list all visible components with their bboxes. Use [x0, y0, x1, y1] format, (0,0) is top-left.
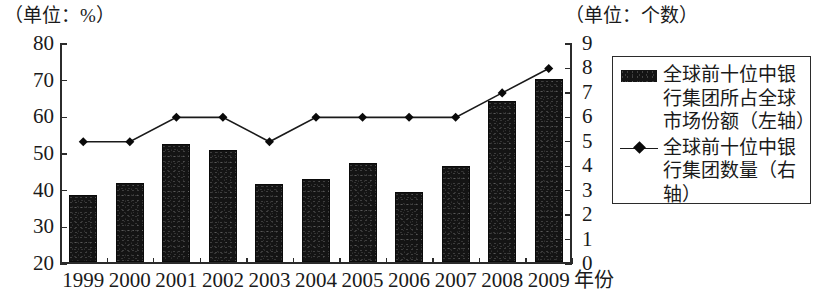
line-path	[83, 68, 548, 141]
x-axis-tick-label: 2005	[337, 268, 389, 292]
right-axis-tick	[565, 263, 572, 264]
bar-2004	[302, 179, 330, 262]
x-axis-tick-label: 2009	[523, 268, 575, 292]
x-axis-tick-label: 1999	[57, 268, 109, 292]
x-axis-tick	[572, 258, 573, 264]
bar-2002	[209, 150, 237, 263]
right-axis-tick	[565, 141, 572, 142]
x-axis-tick-labels: 1999200020012002200320042005200620072008…	[60, 268, 572, 296]
right-axis-tick-label: 6	[582, 106, 593, 127]
bar-2007	[442, 166, 470, 262]
bar-1999	[69, 195, 97, 263]
x-axis-tick	[60, 258, 61, 264]
right-axis-tick-label: 7	[582, 82, 593, 103]
line-diamond-swatch-icon	[619, 138, 659, 160]
x-axis-tick	[246, 258, 247, 264]
left-axis-tick-label: 70	[33, 70, 54, 91]
x-axis-tick-label: 2003	[243, 268, 295, 292]
x-axis-tick	[293, 258, 294, 264]
x-axis-tick	[339, 258, 340, 264]
x-axis-tick-label: 2007	[430, 268, 482, 292]
x-axis-tick	[386, 258, 387, 264]
left-axis-tick-label: 50	[33, 143, 54, 164]
left-axis-tick	[60, 43, 67, 44]
right-axis-tick-label: 1	[582, 229, 593, 250]
right-axis-tick-label: 2	[582, 204, 593, 225]
line-marker-2007	[451, 113, 460, 122]
x-axis-tick	[432, 258, 433, 264]
bar-2001	[162, 144, 190, 262]
bank-market-share-chart: （单位：%） （单位：个数） 80706050403020 9876543210…	[0, 0, 815, 297]
right-axis-tick-label: 3	[582, 180, 593, 201]
left-axis-tick	[60, 227, 67, 228]
x-axis-tick-label: 2008	[476, 268, 528, 292]
line-marker-2005	[358, 113, 367, 122]
x-axis-tick-label: 2006	[383, 268, 435, 292]
legend-item-label: 全球前十位中银 行集团所占全球 市场份额（左轴）	[663, 63, 806, 134]
line-marker-2009	[544, 64, 553, 73]
right-axis-tick-label: 4	[582, 155, 593, 176]
chart-legend: 全球前十位中银 行集团所占全球 市场份额（左轴） 全球前十位中银 行集团数量（右…	[612, 56, 811, 204]
legend-item-bank-count: 全球前十位中银 行集团数量（右 轴）	[619, 136, 806, 207]
x-axis-tick	[479, 258, 480, 264]
x-axis-tick	[107, 258, 108, 264]
x-axis-tick	[525, 258, 526, 264]
line-marker-2008	[498, 88, 507, 97]
right-axis-tick	[565, 239, 572, 240]
left-axis-tick	[60, 117, 67, 118]
line-marker-1999	[79, 137, 88, 146]
left-axis-tick	[60, 190, 67, 191]
legend-item-market-share: 全球前十位中银 行集团所占全球 市场份额（左轴）	[619, 63, 806, 134]
x-axis-tick	[153, 258, 154, 264]
bar-swatch-icon	[619, 65, 659, 87]
line-marker-2006	[405, 113, 414, 122]
left-axis-tick-labels: 80706050403020	[10, 44, 54, 264]
right-axis-tick	[565, 190, 572, 191]
x-axis-tick-label: 2001	[150, 268, 202, 292]
x-axis-tick-label: 2004	[290, 268, 342, 292]
right-axis-tick	[565, 214, 572, 215]
plot-area	[60, 44, 572, 264]
left-axis-tick-label: 30	[33, 216, 54, 237]
left-axis-tick	[60, 153, 67, 154]
line-marker-2004	[311, 113, 320, 122]
bar-2000	[116, 183, 144, 263]
right-axis-tick	[565, 92, 572, 93]
left-axis-tick-label: 60	[33, 106, 54, 127]
x-axis-tick	[200, 258, 201, 264]
legend-item-label: 全球前十位中银 行集团数量（右 轴）	[663, 136, 796, 207]
bar-2006	[395, 192, 423, 263]
right-axis-line	[570, 44, 572, 264]
x-axis-tick-label: 2002	[197, 268, 249, 292]
right-axis-tick	[565, 166, 572, 167]
x-axis-tick-label: 2000	[104, 268, 156, 292]
right-axis-tick-label: 8	[582, 57, 593, 78]
bar-2005	[349, 163, 377, 262]
right-axis-tick	[565, 117, 572, 118]
right-axis-unit-caption: （单位：个数）	[565, 5, 698, 27]
right-axis-tick-label: 5	[582, 131, 593, 152]
line-marker-2002	[218, 113, 227, 122]
right-axis-tick	[565, 43, 572, 44]
left-axis-tick-label: 80	[33, 33, 54, 54]
line-marker-2000	[125, 137, 134, 146]
left-axis-tick	[60, 80, 67, 81]
line-marker-2001	[172, 113, 181, 122]
x-axis-title: 年份	[574, 268, 614, 292]
left-axis-tick-label: 40	[33, 180, 54, 201]
right-axis-tick-labels: 9876543210	[582, 44, 612, 264]
right-axis-tick	[565, 68, 572, 69]
bottom-axis-line	[60, 262, 572, 264]
bar-2003	[255, 184, 283, 263]
line-marker-2003	[265, 137, 274, 146]
left-axis-unit-caption: （单位：%）	[4, 5, 115, 27]
right-axis-tick-label: 9	[582, 33, 593, 54]
bar-2008	[488, 101, 516, 262]
left-axis-tick-label: 20	[33, 253, 54, 274]
bar-2009	[535, 79, 563, 262]
